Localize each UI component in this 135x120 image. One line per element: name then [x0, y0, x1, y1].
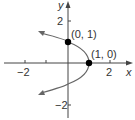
point-label-0-1: (0, 1)	[71, 28, 97, 40]
tick-label-x-neg2: −2	[17, 66, 30, 78]
tick-label-y-neg2: −2	[55, 99, 68, 111]
x-axis-label: x	[125, 66, 132, 78]
x-axis-arrow-icon	[126, 61, 133, 66]
curve-arrow-lower-icon	[38, 90, 45, 95]
tick-label-y-2: 2	[57, 15, 63, 27]
point-label-1-0: (1, 0)	[91, 48, 117, 60]
y-axis-label: y	[57, 0, 65, 11]
curve-arrow-upper-icon	[38, 31, 45, 36]
point-1-0	[86, 60, 92, 66]
y-axis-arrow-icon	[66, 1, 71, 8]
graph: −2 2 2 −2 x y (0, 1) (1, 0)	[0, 0, 135, 120]
tick-label-x-2: 2	[106, 66, 112, 78]
